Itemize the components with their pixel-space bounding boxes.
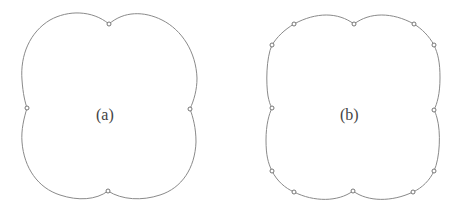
control-point bbox=[188, 107, 192, 111]
control-point bbox=[292, 190, 296, 194]
control-point bbox=[106, 189, 110, 193]
control-point bbox=[270, 169, 274, 173]
control-point bbox=[25, 106, 29, 110]
panel-b-label: (b) bbox=[340, 106, 359, 124]
control-point bbox=[432, 43, 436, 47]
control-point bbox=[270, 106, 274, 110]
control-point bbox=[352, 22, 356, 26]
panel-a-label: (a) bbox=[96, 106, 114, 124]
control-point bbox=[351, 189, 355, 193]
control-point bbox=[107, 22, 111, 26]
control-point bbox=[270, 43, 274, 47]
control-point bbox=[432, 108, 436, 112]
diagram-canvas bbox=[0, 0, 458, 215]
control-point bbox=[411, 190, 415, 194]
control-point bbox=[412, 22, 416, 26]
control-point bbox=[292, 22, 296, 26]
control-point bbox=[432, 169, 436, 173]
